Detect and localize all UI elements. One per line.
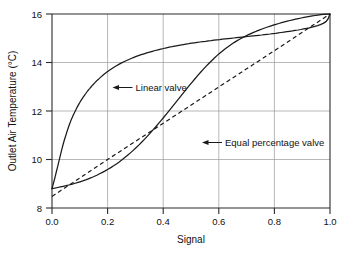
y-tick-label-16: 16 [31, 9, 42, 20]
x-tick-label-0.0: 0.0 [45, 216, 58, 227]
y-axis-title: Outlet Air Temperature (°C) [7, 51, 18, 172]
y-tick-label-12: 12 [31, 106, 42, 117]
x-tick-label-0.6: 0.6 [212, 216, 225, 227]
x-axis-title: Signal [177, 234, 205, 245]
chart-canvas: 16 14 12 10 8 0.0 0.2 0.4 0.6 0.8 1.0 Si… [0, 0, 356, 259]
equal-percentage-valve-label: Equal percentage valve [225, 137, 324, 148]
y-tick-label-10: 10 [31, 154, 42, 165]
y-tick-label-14: 14 [31, 57, 42, 68]
x-tick-label-0.4: 0.4 [157, 216, 170, 227]
y-tick-label-8: 8 [37, 203, 42, 214]
x-tick-label-0.2: 0.2 [101, 216, 114, 227]
x-tick-label-1.0: 1.0 [323, 216, 336, 227]
chart-figure: 16 14 12 10 8 0.0 0.2 0.4 0.6 0.8 1.0 Si… [0, 0, 356, 259]
linear-valve-label: Linear valve [136, 82, 187, 93]
x-tick-label-0.8: 0.8 [268, 216, 281, 227]
